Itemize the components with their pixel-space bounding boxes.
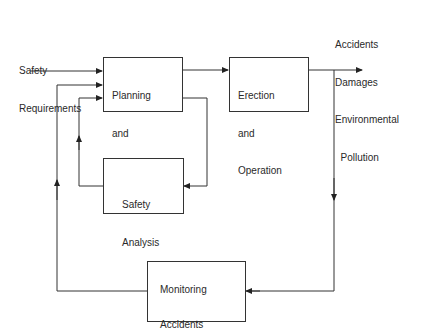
- line-safety-analysis-to-planning: [79, 98, 103, 186]
- input-line: Safety: [19, 65, 81, 78]
- node-line: Analysis: [122, 237, 159, 250]
- node-line: Operation: [238, 165, 282, 178]
- line-planning-to-safety-analysis: [182, 98, 207, 186]
- node-erection-and-operation: Erection and Operation: [229, 57, 309, 112]
- node-monitoring: Monitoring Accidents Damages Environment…: [147, 261, 246, 322]
- node-line: Monitoring: [160, 284, 224, 296]
- diagram-canvas: Safety Requirements Accidents Damages En…: [0, 0, 423, 336]
- node-line: Safety: [122, 199, 159, 212]
- node-line: Accidents: [160, 319, 224, 331]
- node-line: and: [238, 128, 282, 141]
- output-line: Pollution: [335, 152, 399, 165]
- output-line: Accidents: [335, 39, 399, 52]
- output-line: Environmental: [335, 114, 399, 127]
- output-hazards: Accidents Damages Environmental Pollutio…: [335, 14, 399, 189]
- output-line: Damages: [335, 77, 399, 90]
- node-planning-and-construction: Planning and Construction: [103, 57, 183, 112]
- input-safety-requirements: Safety Requirements: [19, 40, 81, 140]
- input-line: Requirements: [19, 103, 81, 116]
- node-line: Erection: [238, 90, 282, 103]
- node-line: and: [112, 128, 168, 141]
- node-line: Planning: [112, 90, 168, 103]
- node-safety-analysis: Safety Analysis: [103, 158, 184, 214]
